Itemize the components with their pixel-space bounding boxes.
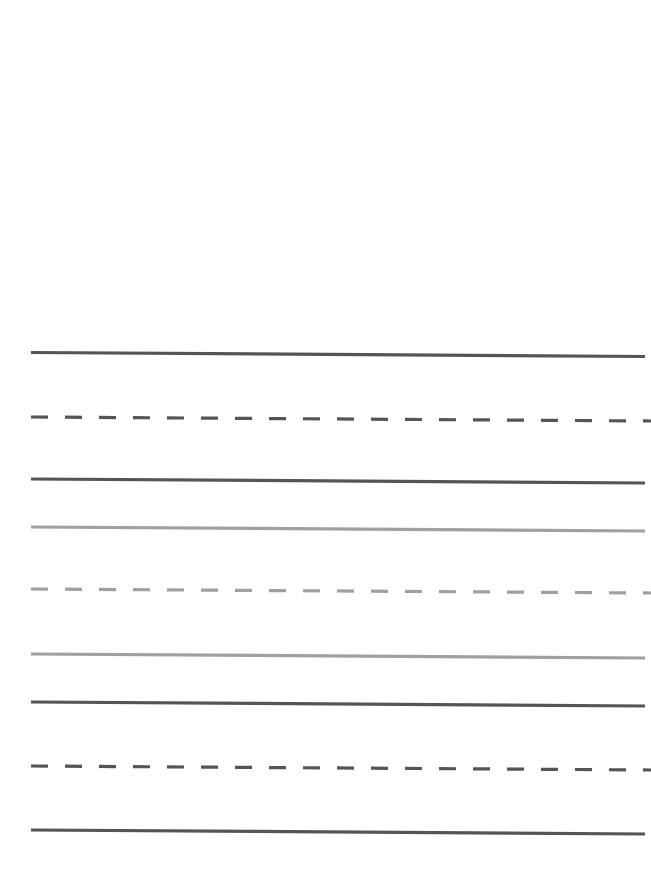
figure-canvas bbox=[0, 0, 651, 880]
line-series-plot bbox=[0, 0, 651, 880]
plot-background bbox=[0, 0, 651, 880]
